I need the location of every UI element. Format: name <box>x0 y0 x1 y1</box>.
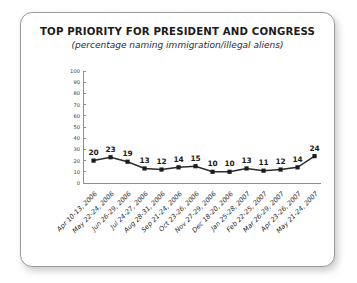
data-point-value-label: 10 <box>224 159 234 168</box>
y-axis-tick-label: 30 <box>73 146 80 152</box>
data-point-value-label: 13 <box>241 156 251 165</box>
data-point-value-label: 20 <box>88 148 98 157</box>
y-axis-tick-label: 50 <box>73 124 80 130</box>
data-point-marker[interactable] <box>108 155 112 159</box>
y-axis-tick-label: 20 <box>73 158 80 164</box>
data-point-marker[interactable] <box>193 164 197 168</box>
data-point-marker[interactable] <box>227 170 231 174</box>
y-axis-tick-label: 100 <box>70 68 80 74</box>
y-axis-tick-labels: 0102030405060708090100 <box>70 68 80 186</box>
data-point-marker[interactable] <box>295 165 299 169</box>
plot-area: 0102030405060708090100 20231913121415101… <box>21 13 335 267</box>
data-point-marker[interactable] <box>244 166 248 170</box>
data-point-value-label: 12 <box>275 157 285 166</box>
data-point-value-label: 24 <box>309 144 319 153</box>
data-point-value-label: 12 <box>156 157 166 166</box>
y-axis-tick-label: 70 <box>73 102 80 108</box>
data-point-marker[interactable] <box>91 159 95 163</box>
data-point-marker[interactable] <box>159 167 163 171</box>
data-point-marker[interactable] <box>176 165 180 169</box>
y-axis-tick-label: 60 <box>73 113 80 119</box>
data-point-value-label: 13 <box>139 156 149 165</box>
data-point-marker[interactable] <box>312 154 316 158</box>
line-chart-svg: 0102030405060708090100 20231913121415101… <box>21 13 335 267</box>
data-point-marker[interactable] <box>142 166 146 170</box>
x-axis-category-labels: Apr 10-13, 2006May 22-24, 2006Jun 26-29,… <box>55 189 321 235</box>
data-point-marker[interactable] <box>261 169 265 173</box>
chart-card: TOP PRIORITY FOR PRESIDENT AND CONGRESS … <box>20 12 335 267</box>
y-axis-tick-label: 10 <box>73 169 80 175</box>
y-axis-tick-label: 0 <box>77 180 80 186</box>
data-point-value-label: 11 <box>258 158 268 167</box>
data-point-marker[interactable] <box>278 167 282 171</box>
data-point-value-label: 10 <box>207 159 217 168</box>
data-point-labels: 2023191312141510101311121424 <box>88 144 319 169</box>
data-point-value-label: 23 <box>105 145 115 154</box>
y-axis-tick-label: 90 <box>73 79 80 85</box>
data-point-value-label: 19 <box>122 149 132 158</box>
data-point-value-label: 15 <box>190 154 200 163</box>
data-point-value-label: 14 <box>173 155 183 164</box>
data-point-value-label: 14 <box>292 155 302 164</box>
data-point-marker[interactable] <box>125 160 129 164</box>
y-axis-tick-label: 40 <box>73 135 80 141</box>
data-point-marker[interactable] <box>210 170 214 174</box>
y-axis-tick-label: 80 <box>73 90 80 96</box>
